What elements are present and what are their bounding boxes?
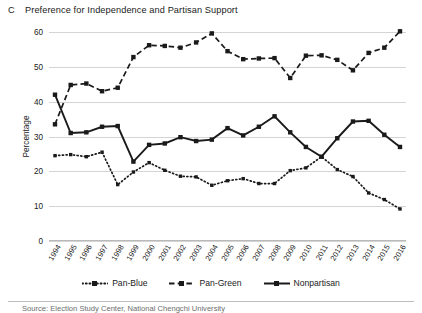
- data-point: [194, 139, 198, 143]
- source-note: Source: Election Study Center, National …: [22, 304, 352, 313]
- x-axis-tick: 2008: [266, 243, 282, 262]
- x-axis-tick: 1999: [125, 243, 141, 262]
- legend-swatch-icon: [169, 279, 195, 288]
- x-axis-tick: 2009: [282, 243, 298, 262]
- x-axis-tick-labels: 1994199519961997199819992000200120022003…: [49, 243, 406, 281]
- series-pan-green: [53, 29, 402, 126]
- data-point: [273, 182, 276, 185]
- data-point: [147, 143, 151, 147]
- data-point: [68, 131, 72, 135]
- x-axis-tick: 2010: [297, 243, 313, 262]
- panel-letter: C: [8, 5, 25, 15]
- data-point: [147, 43, 151, 47]
- y-axis-tick: 50: [34, 62, 43, 71]
- data-point: [272, 56, 276, 60]
- data-point: [304, 53, 308, 57]
- y-axis-tick: 0: [38, 237, 43, 246]
- data-point: [163, 141, 167, 145]
- x-axis-tick: 1995: [62, 243, 78, 262]
- chart-series-layer: [49, 32, 406, 241]
- legend-label: Pan-Green: [199, 278, 241, 288]
- data-point: [225, 49, 229, 53]
- data-point: [335, 58, 339, 62]
- x-axis-tick: 2001: [156, 243, 172, 262]
- data-point: [53, 122, 57, 126]
- series-pan-blue: [53, 150, 401, 210]
- data-point: [116, 124, 120, 128]
- x-axis-tick: 2002: [172, 243, 188, 262]
- x-axis-tick: 2007: [250, 243, 266, 262]
- data-point: [288, 130, 292, 134]
- data-point: [178, 45, 182, 49]
- y-axis-title-label: Percentage: [22, 116, 31, 158]
- data-point: [84, 130, 88, 134]
- data-point: [194, 40, 198, 44]
- y-axis-tick: 20: [34, 167, 43, 176]
- data-point: [241, 177, 244, 180]
- data-point: [367, 191, 370, 194]
- legend-item-nonpartisan[interactable]: Nonpartisan: [264, 278, 340, 288]
- x-axis-tick: 2015: [376, 243, 392, 262]
- data-point: [257, 125, 261, 129]
- data-point: [241, 57, 245, 61]
- legend-item-pan-green[interactable]: Pan-Green: [169, 278, 241, 288]
- data-point: [304, 145, 308, 149]
- y-axis-tick: 30: [34, 132, 43, 141]
- data-point: [179, 175, 182, 178]
- data-point: [366, 51, 370, 55]
- data-point: [225, 126, 229, 130]
- data-point: [84, 81, 88, 85]
- data-point: [382, 45, 386, 49]
- data-point: [319, 53, 323, 57]
- x-axis-tick: 2004: [203, 243, 219, 262]
- data-point: [163, 44, 167, 48]
- data-point: [100, 150, 103, 153]
- page-title: Preference for Independence and Partisan…: [25, 5, 238, 15]
- data-point: [241, 133, 245, 137]
- data-point: [383, 198, 386, 201]
- data-point: [336, 168, 339, 171]
- x-axis-tick: 1996: [78, 243, 94, 262]
- x-axis-tick: 2006: [235, 243, 251, 262]
- y-axis-tick: 40: [34, 97, 43, 106]
- data-point: [257, 182, 260, 185]
- data-point: [178, 135, 182, 139]
- data-point: [210, 31, 214, 35]
- x-axis-tick: 2012: [329, 243, 345, 262]
- x-axis-tick: 1997: [94, 243, 110, 262]
- data-point: [288, 76, 292, 80]
- data-point: [131, 55, 135, 59]
- x-axis-baseline: [49, 240, 406, 241]
- legend-swatch-icon: [82, 279, 108, 288]
- data-point: [319, 155, 323, 159]
- data-point: [351, 175, 354, 178]
- data-point: [335, 136, 339, 140]
- data-point: [366, 119, 370, 123]
- x-axis-tick: 2000: [141, 243, 157, 262]
- legend-label: Nonpartisan: [294, 278, 340, 288]
- data-point: [147, 161, 150, 164]
- data-point: [398, 207, 401, 210]
- data-point: [131, 159, 135, 163]
- data-point: [398, 145, 402, 149]
- legend-item-pan-blue[interactable]: Pan-Blue: [82, 278, 147, 288]
- data-point: [116, 183, 119, 186]
- data-point: [100, 125, 104, 129]
- chart-legend: Pan-BluePan-GreenNonpartisan: [0, 278, 422, 288]
- x-axis-tick: 2016: [392, 243, 408, 262]
- data-point: [351, 68, 355, 72]
- data-point: [68, 83, 72, 87]
- data-point: [257, 56, 261, 60]
- x-axis-tick: 1994: [47, 243, 63, 262]
- data-point: [69, 153, 72, 156]
- figure-title: CPreference for Independence and Partisa…: [8, 5, 238, 15]
- data-point: [210, 137, 214, 141]
- legend-swatch-icon: [264, 279, 290, 288]
- data-point: [132, 170, 135, 173]
- chart-plot-area: 0102030405060: [49, 32, 406, 241]
- data-point: [382, 133, 386, 137]
- x-axis-tick: 2014: [360, 243, 376, 262]
- x-axis-tick: 1998: [109, 243, 125, 262]
- y-axis-tick: 10: [34, 202, 43, 211]
- data-point: [100, 89, 104, 93]
